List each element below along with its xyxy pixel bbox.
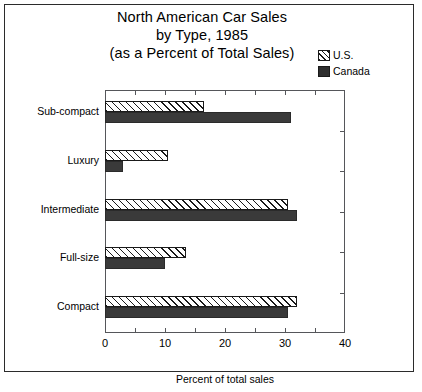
category-label: Luxury [67, 155, 99, 166]
x-tick-label: 10 [159, 337, 171, 349]
x-tick-label: 30 [279, 337, 291, 349]
category-label: Compact [57, 301, 99, 312]
tick-bottom [225, 328, 226, 333]
legend-item-canada: Canada [318, 64, 404, 78]
title-line-2: by Type, 1985 [52, 26, 352, 44]
tick-bottom [195, 328, 196, 333]
bar-group: Sub-compact [105, 101, 345, 123]
bar-canada [105, 161, 123, 172]
bar-group: Full-size [105, 247, 345, 269]
legend-swatch-solid-icon [318, 66, 330, 77]
tick-top [165, 90, 166, 95]
category-label: Intermediate [41, 204, 99, 215]
bar-group: Intermediate [105, 199, 345, 221]
chart-title: North American Car Sales by Type, 1985 (… [52, 8, 352, 62]
category-label: Sub-compact [37, 106, 99, 117]
tick-top [195, 90, 196, 95]
tick-bottom [255, 328, 256, 333]
x-tick-label: 40 [339, 337, 351, 349]
tick-right [340, 131, 345, 132]
tick-bottom [315, 328, 316, 333]
bar-us [105, 150, 168, 161]
bottom-caption [4, 380, 244, 390]
legend-label-canada: Canada [333, 66, 370, 77]
bar-canada [105, 258, 165, 269]
tick-bottom [135, 328, 136, 333]
chart-legend: U.S. Canada [318, 48, 404, 80]
tick-bottom [285, 328, 286, 333]
tick-top [135, 90, 136, 95]
bar-us [105, 247, 186, 258]
legend-item-us: U.S. [318, 48, 404, 62]
x-tick-label: 20 [219, 337, 231, 349]
bar-group: Luxury [105, 150, 345, 172]
bar-us [105, 296, 297, 307]
tick-top [225, 90, 226, 95]
bar-us [105, 101, 204, 112]
title-line-3: (as a Percent of Total Sales) [52, 44, 352, 62]
category-label: Full-size [60, 252, 99, 263]
bar-canada [105, 307, 288, 318]
tick-top [315, 90, 316, 95]
plot-wrapper: Sub-compactLuxuryIntermediateFull-sizeCo… [105, 90, 345, 333]
bar-canada [105, 210, 297, 221]
legend-swatch-hatched-icon [318, 50, 330, 61]
x-tick-label: 0 [102, 337, 108, 349]
tick-right [340, 293, 345, 294]
bar-us [105, 199, 288, 210]
tick-top [255, 90, 256, 95]
legend-label-us: U.S. [333, 50, 353, 61]
bar-canada [105, 112, 291, 123]
title-line-1: North American Car Sales [52, 8, 352, 26]
bar-group: Compact [105, 296, 345, 318]
chart-figure: North American Car Sales by Type, 1985 (… [0, 0, 422, 392]
tick-top [285, 90, 286, 95]
tick-bottom [165, 328, 166, 333]
